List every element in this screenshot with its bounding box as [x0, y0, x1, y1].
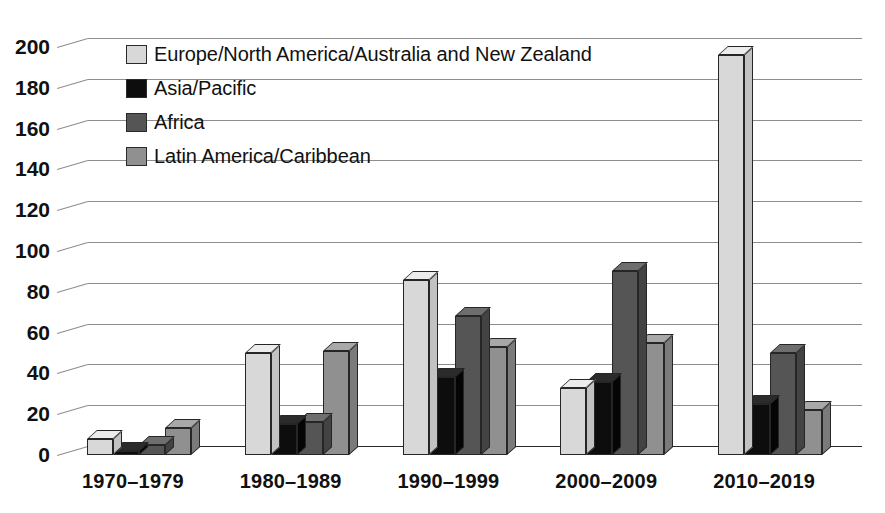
bar-group — [718, 0, 822, 455]
legend-label: Europe/North America/Australia and New Z… — [154, 43, 592, 66]
x-axis-tick-label: 2010–2019 — [685, 470, 843, 493]
bar-front-face — [87, 439, 113, 455]
legend-color-swatch — [126, 113, 147, 132]
legend-color-swatch — [126, 45, 147, 64]
x-axis-tick-label: 1970–1979 — [54, 470, 212, 493]
bar-side-face — [664, 335, 673, 455]
legend-item: Latin America/Caribbean — [126, 142, 592, 171]
x-axis-tick-label: 1990–1999 — [370, 470, 528, 493]
bar-side-face — [507, 339, 516, 455]
bar-side-face — [770, 396, 779, 455]
bar-side-face — [796, 345, 805, 455]
legend-color-swatch — [126, 147, 147, 166]
bar-side-face — [586, 380, 595, 455]
legend-item: Africa — [126, 108, 592, 137]
legend-label: Latin America/Caribbean — [154, 145, 371, 168]
bar-side-face — [612, 373, 621, 455]
bar-front-face — [560, 388, 586, 455]
x-axis-tick-label: 2000–2009 — [527, 470, 685, 493]
legend-color-swatch — [126, 79, 147, 98]
bar-side-face — [455, 369, 464, 455]
legend-label: Africa — [154, 111, 205, 134]
bar — [403, 280, 429, 455]
legend-item: Asia/Pacific — [126, 74, 592, 103]
legend-item: Europe/North America/Australia and New Z… — [126, 40, 592, 69]
bar-side-face — [481, 308, 490, 455]
bar-side-face — [349, 343, 358, 455]
bar-side-face — [822, 402, 831, 455]
bar-front-face — [403, 280, 429, 455]
bar — [245, 353, 271, 455]
bar-front-face — [245, 353, 271, 455]
bar-side-face — [271, 345, 280, 455]
bar-side-face — [429, 271, 438, 455]
legend-label: Asia/Pacific — [154, 77, 256, 100]
bar-side-face — [744, 47, 753, 455]
bar — [87, 439, 113, 455]
bar — [718, 55, 744, 455]
bar — [560, 388, 586, 455]
bar-side-face — [638, 263, 647, 455]
bar-chart: 020406080100120140160180200 1970–1979198… — [0, 0, 885, 513]
x-axis-tick-label: 1980–1989 — [212, 470, 370, 493]
chart-legend: Europe/North America/Australia and New Z… — [126, 40, 592, 176]
bar-front-face — [718, 55, 744, 455]
